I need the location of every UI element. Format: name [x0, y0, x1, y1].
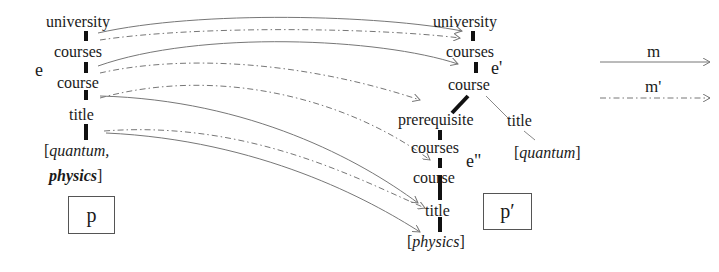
node-courses-p: courses — [54, 44, 102, 60]
value-quantum: [quantum] — [514, 145, 581, 161]
edge-label-e: e — [35, 62, 43, 78]
node-title-p: title — [69, 107, 94, 123]
value-p-line2: physics] — [49, 168, 102, 184]
node-university-p-prime: university — [433, 14, 497, 30]
node-courses-2: courses — [411, 140, 459, 156]
pattern-box-p-prime: p′ — [483, 193, 532, 230]
node-course-p-prime: course — [448, 77, 490, 93]
node-prerequisite: prerequisite — [398, 112, 474, 128]
legend-label-m: m — [647, 44, 660, 60]
node-title-quantum: title — [507, 113, 532, 129]
node-course-p: course — [57, 75, 99, 91]
pattern-box-p: p — [68, 196, 115, 234]
node-course-2: course — [413, 170, 455, 186]
value-p-line1: [quantum, — [44, 143, 109, 159]
legend-label-m-prime: m' — [645, 79, 661, 95]
edge-label-e-prime: e' — [491, 60, 502, 76]
node-courses-p-prime: courses — [446, 44, 494, 60]
node-university-p: university — [46, 14, 110, 30]
value-physics: [physics] — [407, 234, 465, 250]
node-title-physics: title — [425, 203, 450, 219]
edge-label-e-double-prime: e" — [466, 153, 481, 169]
